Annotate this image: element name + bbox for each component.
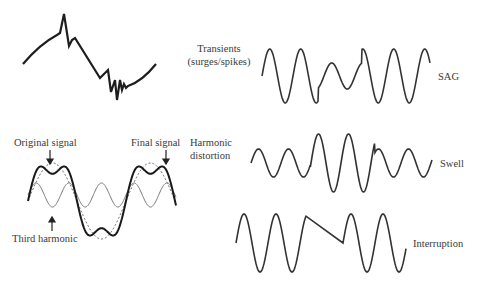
harmonic-distortion-label: Harmonic distortion — [190, 136, 232, 162]
harmonic-diagram — [28, 150, 176, 239]
transients-label-line1: Transients — [180, 42, 258, 55]
swell-label: Swell — [440, 157, 464, 170]
harmonic-label-line1: Harmonic — [190, 136, 232, 149]
original-signal-label: Original signal — [14, 136, 77, 149]
final-signal-label: Final signal — [131, 136, 180, 149]
transients-label: Transients (surges/spikes) — [180, 42, 258, 68]
swell-waveform — [251, 134, 432, 192]
third-harmonic-arrow — [49, 217, 55, 231]
sag-waveform — [262, 49, 430, 103]
interruption-label: Interruption — [413, 237, 463, 250]
sag-label: SAG — [438, 70, 459, 83]
original-signal-arrow — [47, 150, 53, 164]
interruption-waveform — [236, 214, 406, 272]
harmonic-label-line2: distortion — [190, 149, 232, 162]
transients-label-line2: (surges/spikes) — [180, 55, 258, 68]
final-signal-arrow — [163, 150, 169, 164]
third-harmonic-label: Third harmonic — [12, 232, 78, 245]
transients-waveform — [23, 14, 156, 100]
